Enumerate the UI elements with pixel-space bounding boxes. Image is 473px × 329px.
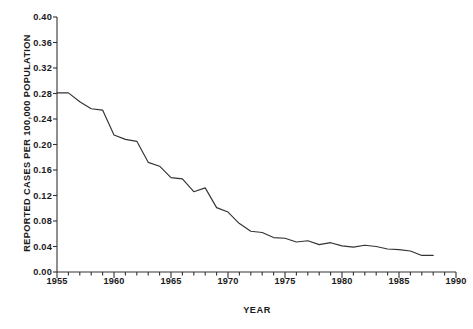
data-series-line [57, 93, 433, 256]
x-axis-ticks [57, 272, 456, 278]
plot-area [0, 0, 473, 329]
chart-container: REPORTED CASES PER 100,000 POPULATION 0.… [0, 0, 473, 329]
axis-lines [57, 17, 456, 272]
y-axis-ticks [53, 17, 57, 272]
